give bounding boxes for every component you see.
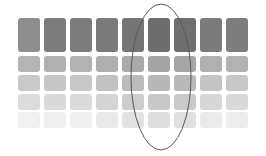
tile-r5-c6 — [148, 112, 170, 128]
tile-r5-c4 — [96, 112, 118, 128]
tile-r2-c5 — [122, 56, 144, 72]
tile-r5-c9 — [226, 112, 248, 128]
tile-r2-c2 — [44, 56, 66, 72]
tile-r1-c2 — [44, 18, 66, 52]
tile-r4-c3 — [70, 94, 92, 110]
tile-r2-c8 — [200, 56, 222, 72]
tile-r1-c3 — [70, 18, 92, 52]
tile-r1-c8 — [200, 18, 222, 52]
tile-r2-c6 — [148, 56, 170, 72]
tile-r1-c9 — [226, 18, 248, 52]
tile-r5-c1 — [18, 112, 40, 128]
tile-r5-c5 — [122, 112, 144, 128]
tile-r1-c5 — [122, 18, 144, 52]
tile-r4-c5 — [122, 94, 144, 110]
tile-r4-c7 — [174, 94, 196, 110]
tile-r4-c8 — [200, 94, 222, 110]
tile-r4-c4 — [96, 94, 118, 110]
tile-r1-c7 — [174, 18, 196, 52]
tile-grid — [0, 0, 266, 156]
tile-r4-c6 — [148, 94, 170, 110]
tile-r4-c9 — [226, 94, 248, 110]
tile-r5-c2 — [44, 112, 66, 128]
tile-r4-c2 — [44, 94, 66, 110]
tile-r3-c1 — [18, 75, 40, 91]
tile-r3-c3 — [70, 75, 92, 91]
tile-r3-c5 — [122, 75, 144, 91]
tile-r3-c7 — [174, 75, 196, 91]
tile-r3-c9 — [226, 75, 248, 91]
tile-r5-c7 — [174, 112, 196, 128]
tile-r4-c1 — [18, 94, 40, 110]
tile-r1-c4 — [96, 18, 118, 52]
tile-r3-c6 — [148, 75, 170, 91]
tile-r2-c4 — [96, 56, 118, 72]
tile-r3-c8 — [200, 75, 222, 91]
tile-r1-c6 — [148, 18, 170, 52]
tile-r2-c7 — [174, 56, 196, 72]
tile-r1-c1 — [18, 18, 40, 52]
tile-r2-c3 — [70, 56, 92, 72]
tile-r5-c3 — [70, 112, 92, 128]
tile-r5-c8 — [200, 112, 222, 128]
figure-root — [0, 0, 266, 156]
tile-r3-c4 — [96, 75, 118, 91]
tile-r2-c1 — [18, 56, 40, 72]
tile-r2-c9 — [226, 56, 248, 72]
tile-r3-c2 — [44, 75, 66, 91]
